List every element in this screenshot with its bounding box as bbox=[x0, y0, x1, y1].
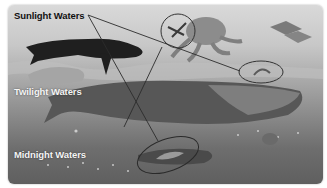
ocean-zones-illustration: Sunlight Waters Twilight Waters Midnight… bbox=[8, 5, 323, 184]
crustacean-icon bbox=[168, 23, 186, 37]
zone-label-twilight: Twilight Waters bbox=[14, 86, 82, 97]
zone-label-sunlight: Sunlight Waters bbox=[14, 10, 84, 21]
small-deep-creature bbox=[262, 133, 278, 145]
zone-label-midnight: Midnight Waters bbox=[14, 149, 86, 160]
